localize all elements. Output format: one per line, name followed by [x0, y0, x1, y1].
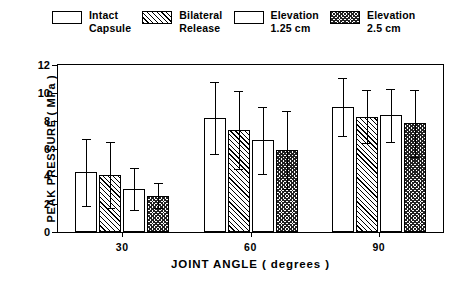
error-bar — [158, 183, 159, 208]
error-bar-cap-upper — [410, 90, 419, 91]
y-axis-tick — [52, 93, 58, 94]
error-bar-cap-upper — [386, 89, 395, 90]
legend-item-label: Elevation 2.5 cm — [367, 9, 415, 34]
plot-area: PEAK PRESSURE ( MPa ) JOINT ANGLE ( degr… — [57, 64, 444, 233]
error-bar-cap-lower — [338, 136, 347, 137]
error-bar-cap-upper — [338, 78, 347, 79]
legend-swatch-elevation-25 — [330, 11, 360, 24]
error-bar — [86, 139, 87, 206]
y-axis-tick — [52, 121, 58, 122]
error-bar — [215, 82, 216, 154]
x-axis-tick — [379, 232, 380, 237]
x-axis-title: JOINT ANGLE ( degrees ) — [58, 258, 443, 270]
y-axis-tick — [52, 65, 58, 66]
error-bar — [263, 107, 264, 174]
legend-swatch-bilateral-release — [142, 11, 172, 24]
error-bar-cap-lower — [258, 174, 267, 175]
y-axis-tick-label: 2 — [44, 199, 50, 210]
error-bar-cap-lower — [130, 210, 139, 211]
error-bar — [287, 111, 288, 189]
error-bar-cap-upper — [82, 139, 91, 140]
y-axis-tick-label: 8 — [44, 115, 50, 126]
error-bar-cap-lower — [410, 157, 419, 158]
x-axis-tick — [251, 232, 252, 237]
legend-swatch-intact-capsule — [52, 11, 82, 24]
error-bar-cap-upper — [234, 91, 243, 92]
error-bar-cap-upper — [130, 168, 139, 169]
error-bar-cap-upper — [154, 183, 163, 184]
error-bar-cap-upper — [282, 111, 291, 112]
chart-legend: Intact CapsuleBilateral ReleaseElevation… — [52, 9, 442, 49]
y-axis-tick-label: 12 — [38, 60, 50, 71]
error-bar-cap-lower — [106, 208, 115, 209]
error-bar-cap-lower — [282, 189, 291, 190]
legend-item: Elevation 1.25 cm — [234, 9, 319, 34]
y-axis-tick-label: 10 — [38, 87, 50, 98]
error-bar — [239, 91, 240, 169]
error-bar-cap-lower — [154, 208, 163, 209]
x-axis-tick-label: 60 — [244, 241, 257, 253]
error-bar-cap-lower — [362, 143, 371, 144]
error-bar-cap-lower — [234, 169, 243, 170]
y-axis-tick-label: 6 — [44, 143, 50, 154]
error-bar-cap-upper — [210, 82, 219, 83]
error-bar-cap-upper — [258, 107, 267, 108]
error-bar — [391, 89, 392, 142]
error-bar — [343, 78, 344, 136]
error-bar — [367, 90, 368, 143]
legend-swatch-elevation-125 — [234, 11, 264, 24]
error-bar — [110, 142, 111, 209]
y-axis-tick-label: 4 — [44, 171, 50, 182]
legend-item-label: Elevation 1.25 cm — [271, 9, 319, 34]
y-axis-tick-label: 0 — [44, 227, 50, 238]
figure: Intact CapsuleBilateral ReleaseElevation… — [0, 0, 451, 285]
x-axis-tick — [122, 232, 123, 237]
error-bar-cap-lower — [210, 154, 219, 155]
legend-item: Intact Capsule — [52, 9, 131, 34]
y-axis-tick — [52, 204, 58, 205]
x-axis-tick-label: 30 — [116, 241, 129, 253]
y-axis-tick — [52, 232, 58, 233]
error-bar — [415, 90, 416, 157]
legend-item-label: Intact Capsule — [89, 9, 131, 34]
error-bar-cap-upper — [362, 90, 371, 91]
error-bar — [134, 168, 135, 210]
legend-item: Bilateral Release — [142, 9, 222, 34]
bars-layer — [58, 65, 443, 232]
error-bar-cap-lower — [386, 142, 395, 143]
error-bar-cap-upper — [106, 142, 115, 143]
legend-item: Elevation 2.5 cm — [330, 9, 415, 34]
error-bar-cap-lower — [82, 206, 91, 207]
y-axis-tick — [52, 149, 58, 150]
legend-item-label: Bilateral Release — [179, 9, 222, 34]
x-axis-tick-label: 90 — [372, 241, 385, 253]
y-axis-tick — [52, 176, 58, 177]
